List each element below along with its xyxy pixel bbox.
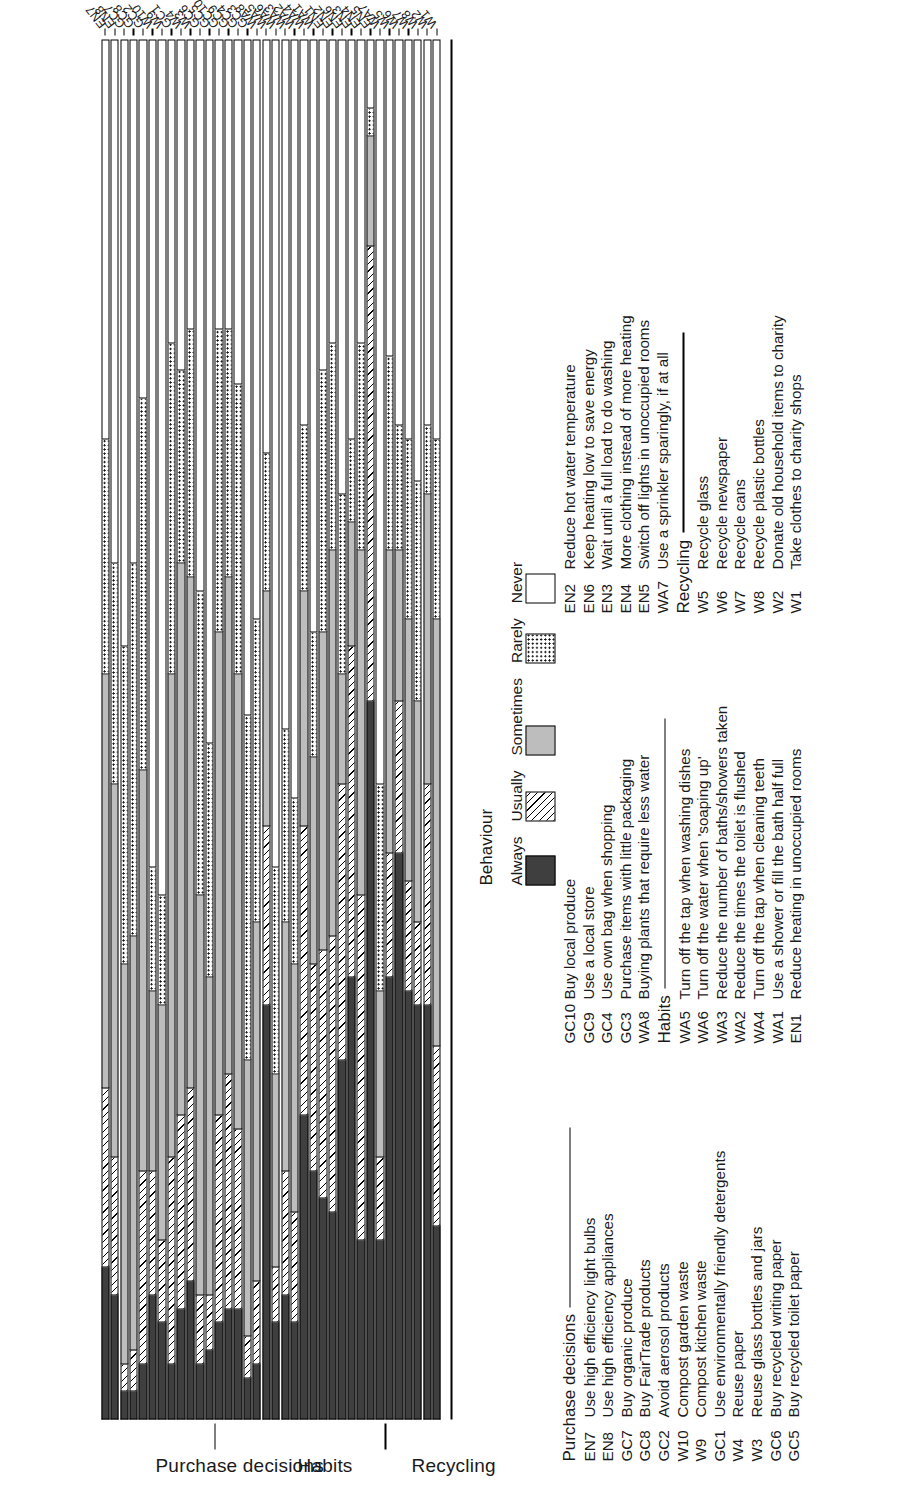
- legend: Behaviour AlwaysUsuallySometimesRarelyNe…: [476, 546, 555, 885]
- bar-row: [337, 39, 345, 1419]
- legend-item: Never: [502, 561, 555, 602]
- bar-segment-always: [138, 1364, 146, 1419]
- bar-segment-never: [337, 39, 345, 494]
- bar-row: [101, 39, 109, 1419]
- bar-segment-usually: [413, 922, 421, 1005]
- bar-row: [366, 39, 374, 1419]
- key-row: W10Compost garden waste: [673, 1069, 692, 1461]
- key-text: Wait until a full load to do washing: [597, 340, 616, 569]
- stacked-bar: [318, 39, 326, 1419]
- bar-row: [157, 39, 165, 1419]
- key-code: EN4: [616, 569, 635, 613]
- key-text: Keep heating low to save energy: [579, 349, 598, 569]
- stacked-bar: [120, 39, 128, 1419]
- bar-segment-never: [129, 39, 137, 563]
- key-code: EN7: [580, 1417, 599, 1461]
- stacked-bar: [243, 39, 251, 1419]
- bar-segment-sometimes: [157, 1005, 165, 1240]
- legend-label: Rarely: [507, 618, 525, 663]
- stacked-bar: [347, 39, 355, 1419]
- key-code: GC5: [784, 1417, 803, 1461]
- stacked-bar: [167, 39, 175, 1419]
- bar-segment-always: [413, 1005, 421, 1419]
- bar-row: [243, 39, 251, 1419]
- legend-swatch-sometimes: [525, 725, 555, 755]
- stacked-bar: [195, 39, 203, 1419]
- key-rows-habits: WA5Turn off the tap when washing dishesW…: [675, 639, 805, 1043]
- key-row: W7Recycle cans: [730, 313, 749, 613]
- bar-segment-usually: [309, 964, 317, 1171]
- key-code: W7: [730, 569, 749, 613]
- bar-segment-never: [309, 39, 317, 632]
- bar-segment-usually: [224, 1074, 232, 1309]
- bar-segment-never: [262, 39, 270, 453]
- key-row: WA4Turn off the tap when cleaning teeth: [749, 639, 768, 1043]
- bar-segment-sometimes: [404, 619, 412, 881]
- bar-segment-never: [290, 39, 298, 798]
- bar-row: [252, 39, 260, 1419]
- legend-title: Behaviour: [476, 546, 496, 885]
- stacked-bar: [157, 39, 165, 1419]
- key-code: EN8: [598, 1417, 617, 1461]
- key-text: Use a shower or fill the bath half full: [768, 758, 787, 999]
- bar-segment-usually: [186, 1088, 194, 1281]
- bar-segment-never: [120, 39, 128, 646]
- key-text: Use own bag when shopping: [597, 804, 616, 999]
- stacked-bar: [281, 39, 289, 1419]
- group-separator: [384, 1423, 386, 1449]
- bar-segment-sometimes: [328, 550, 336, 936]
- key-text: More clothing instead of more heating: [616, 315, 635, 569]
- bar-row: [129, 39, 137, 1419]
- bar-segment-sometimes: [176, 563, 184, 1115]
- bar-segment-never: [423, 39, 431, 425]
- bar-row: [375, 39, 383, 1419]
- key-row: WA8Buying plants that require less water: [634, 639, 653, 1043]
- key-code: W2: [768, 569, 787, 613]
- bar-segment-rarely: [148, 867, 156, 991]
- bar-row: [423, 39, 431, 1419]
- stacked-bar: [138, 39, 146, 1419]
- bar-segment-always: [129, 1391, 137, 1419]
- stacked-bar: [423, 39, 431, 1419]
- bar-segment-never: [404, 39, 412, 439]
- key-text: Use environmentally friendly detergents: [710, 1150, 729, 1417]
- key-text: Use high efficiency light bulbs: [580, 1217, 599, 1417]
- key-row: GC1Use environmentally friendly detergen…: [710, 1069, 729, 1461]
- bar-segment-usually: [385, 853, 393, 977]
- key-code: EN5: [634, 569, 653, 613]
- bar-segment-sometimes: [214, 632, 222, 1115]
- bar-segment-never: [356, 39, 364, 343]
- key-code: GC10: [560, 999, 579, 1043]
- stacked-bar: [366, 39, 374, 1419]
- key-text: Purchase items with little packaging: [616, 758, 635, 999]
- bar-segment-always: [195, 1364, 203, 1419]
- key-row: W2Donate old household items to charity: [768, 313, 787, 613]
- bar-segment-usually: [138, 1171, 146, 1364]
- key-text: Turn off the tap when washing dishes: [675, 748, 694, 999]
- key-code: GC7: [617, 1417, 636, 1461]
- bar-segment-sometimes: [195, 895, 203, 1295]
- key-row: GC9Use a local store: [579, 639, 598, 1043]
- bar-segment-usually: [356, 895, 364, 1240]
- bar-segment-rarely: [205, 743, 213, 978]
- stacked-bar: [186, 39, 194, 1419]
- key-heading-label: Recycling: [674, 539, 693, 613]
- bar-segment-usually: [214, 1115, 222, 1322]
- legend-item: Rarely: [502, 618, 555, 663]
- bar-segment-sometimes: [356, 550, 364, 895]
- key-row: GC6Buy recycled writing paper: [766, 1069, 785, 1461]
- bar-segment-never: [243, 39, 251, 715]
- item-code-key: Purchase decisions EN7Use high efficienc…: [560, 287, 805, 1461]
- section-title-recycling: Recycling: [411, 1454, 495, 1476]
- axis-tick: [331, 28, 332, 35]
- bar-segment-never: [271, 39, 279, 867]
- bar-segment-always: [243, 1378, 251, 1419]
- bar-segment-always: [157, 1322, 165, 1419]
- bar-segment-rarely: [271, 867, 279, 1074]
- bar-segment-always: [318, 1198, 326, 1419]
- bar-segment-rarely: [318, 370, 326, 632]
- stacked-bar: [309, 39, 317, 1419]
- key-rows-purchase-cont: GC10Buy local produceGC9Use a local stor…: [560, 639, 653, 1043]
- bar-segment-always: [404, 991, 412, 1419]
- bar-segment-usually: [281, 1171, 289, 1295]
